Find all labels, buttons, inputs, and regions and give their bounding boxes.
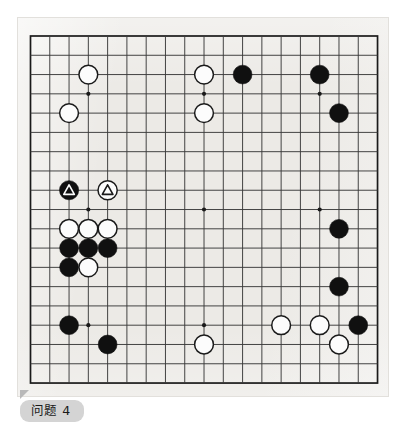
star-point	[318, 207, 322, 211]
caption-area: 问题 4	[20, 400, 84, 424]
stone-black[interactable]	[98, 239, 117, 258]
stone-disc	[79, 65, 98, 84]
stone-white[interactable]	[310, 316, 329, 335]
problem-label: 问题 4	[20, 400, 84, 422]
stone-disc	[98, 219, 117, 238]
stone-disc	[330, 219, 349, 238]
star-point	[86, 92, 90, 96]
stone-disc	[330, 104, 349, 123]
stone-black[interactable]	[330, 104, 349, 123]
stone-disc	[98, 239, 117, 258]
stone-disc	[310, 65, 329, 84]
stone-black[interactable]	[98, 335, 117, 354]
stone-disc	[60, 239, 79, 258]
stone-disc	[60, 104, 79, 123]
star-point	[202, 323, 206, 327]
caption-corner-tab	[20, 390, 29, 399]
stone-black[interactable]	[60, 239, 79, 258]
stone-disc	[79, 239, 98, 258]
stone-white[interactable]	[195, 65, 214, 84]
stone-disc	[195, 335, 214, 354]
star-point	[318, 92, 322, 96]
stone-black[interactable]	[60, 258, 79, 277]
stone-white[interactable]	[79, 219, 98, 238]
stone-black-marked[interactable]	[59, 181, 78, 200]
problem-diagram-page: 问题 4	[0, 0, 405, 434]
stone-white[interactable]	[60, 104, 79, 123]
star-point	[202, 92, 206, 96]
stone-disc	[79, 219, 98, 238]
stone-disc	[98, 335, 117, 354]
stone-disc	[60, 316, 79, 335]
star-point	[86, 207, 90, 211]
stone-white[interactable]	[272, 316, 291, 335]
stone-disc	[330, 277, 349, 296]
stone-disc	[349, 316, 368, 335]
stone-black[interactable]	[330, 219, 349, 238]
stone-white[interactable]	[195, 335, 214, 354]
stone-white[interactable]	[98, 219, 117, 238]
stone-white[interactable]	[79, 65, 98, 84]
stone-white[interactable]	[79, 258, 98, 277]
go-board[interactable]	[0, 0, 405, 434]
stone-black[interactable]	[233, 65, 252, 84]
stone-disc	[195, 104, 214, 123]
star-point	[86, 323, 90, 327]
stone-white[interactable]	[330, 335, 349, 354]
stone-black[interactable]	[330, 277, 349, 296]
star-point	[202, 207, 206, 211]
stone-disc	[233, 65, 252, 84]
stone-disc	[310, 316, 329, 335]
stone-disc	[272, 316, 291, 335]
stone-white-marked[interactable]	[98, 181, 117, 200]
stone-disc	[60, 258, 79, 277]
stone-disc	[195, 65, 214, 84]
stone-disc	[98, 181, 117, 200]
stone-black[interactable]	[60, 316, 79, 335]
stone-white[interactable]	[60, 219, 79, 238]
stone-white[interactable]	[195, 104, 214, 123]
stone-disc	[59, 181, 78, 200]
stone-disc	[60, 219, 79, 238]
stone-black[interactable]	[79, 239, 98, 258]
stone-black[interactable]	[349, 316, 368, 335]
stone-disc	[330, 335, 349, 354]
stone-disc	[79, 258, 98, 277]
stone-black[interactable]	[310, 65, 329, 84]
